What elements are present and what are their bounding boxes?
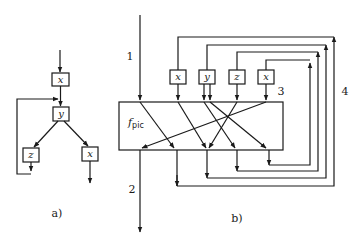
b-node-z-label: z [233, 71, 240, 82]
b-caption: b) [231, 212, 242, 225]
b-label-input: 1 [127, 50, 134, 63]
a-loop-back-edge [17, 99, 58, 174]
a-caption: a) [52, 207, 63, 220]
b-internal-arrow-4 [210, 102, 266, 148]
b-feedback-loop-3-up [237, 52, 318, 171]
diagram-canvas: x y z x a) 1 4 x [0, 0, 360, 245]
a-arrow-y-to-x [64, 121, 88, 146]
b-feedback-loop-3-down [237, 52, 318, 75]
a-node-x2-label: x [87, 148, 93, 159]
a-arrow-y-to-z [34, 121, 58, 147]
b-internal-arrow-3 [204, 102, 235, 148]
b-node-y-label: y [203, 71, 210, 82]
b-internal-arrow-6 [142, 102, 266, 148]
b-label-output: 2 [129, 183, 136, 196]
part-b-pic-function: 1 4 x y z x 3 fpic [119, 15, 349, 232]
b-node-x2-label: x [263, 71, 269, 82]
part-a-flowgraph: x y z x a) [17, 50, 98, 220]
a-node-y-label: y [57, 108, 64, 119]
b-internal-arrow-1 [140, 102, 174, 148]
b-internal-arrow-2 [178, 102, 206, 148]
a-node-z-label: z [27, 149, 34, 160]
b-internal-arrow-5 [209, 102, 237, 148]
b-label-box-arrow: 3 [278, 85, 285, 98]
b-node-x1-label: x [175, 71, 181, 82]
b-fpic-label: fpic [127, 116, 144, 130]
a-node-x1-label: x [58, 74, 64, 85]
b-label-feedback: 4 [342, 85, 349, 98]
